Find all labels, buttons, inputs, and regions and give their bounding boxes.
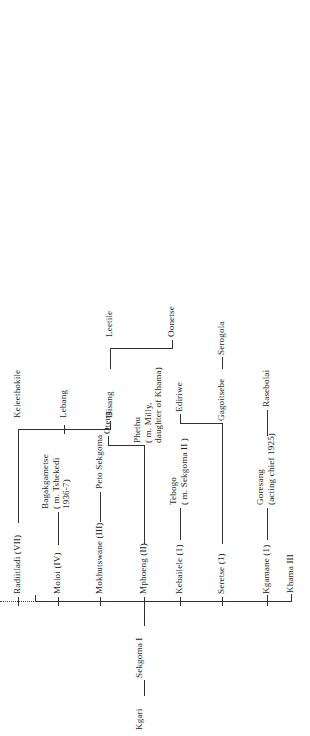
tick-radiitladi [18,597,19,606]
node-tebogo: Tebogo ( m. Sekgoma II ) [168,438,189,505]
connector-kgamane-goresang [267,508,268,540]
node-disang: Disang [104,391,115,418]
node-oonetse: Oonetse [166,306,177,337]
genealogy-canvas: Kgari Sekgoma I Kgamane (1) Seretse (1) … [0,0,310,736]
node-goresang: Goresang (acting chief 1925) [255,433,276,505]
node-sekgoma-i: Sekgoma I [134,638,145,679]
tick-moloi [58,597,59,606]
node-kgamane: Kgamane (1) [261,545,272,594]
node-moloi: Moloi (IV) [52,552,63,594]
connector-seretse-gagoitsebe [222,424,223,544]
connector-moloi-bagakgametse [58,512,59,545]
bracket-seretse-kebailele [180,423,223,424]
connector-radiitladi-children [18,430,19,523]
connector-gagoitsebe-serogola [222,357,223,369]
connector-oteng-stub [108,436,109,446]
spine-children-of-sekgoma [35,601,267,602]
node-bagakgametse: Bagakgametse ( m. Tshekedi 1936-7) [40,454,72,509]
node-ediriwe: Ediriwe [174,382,185,412]
bracket-disang-children [110,348,172,349]
connector-mokhutswane-peto [100,492,101,522]
node-phethu: Phethu ( m. Milly, daughter of Khama) [132,367,164,443]
node-peto-sekgoma: Peto Sekgoma [94,435,105,489]
node-gagoitsebe: Gagoitsebe [216,379,227,421]
tick-lebang [64,425,65,434]
connector-mphoeng-phethu [144,446,145,544]
node-khama-iii: Khama III [285,554,296,593]
node-kgari: Kgari [134,709,145,730]
tick-mphoeng [144,597,145,606]
node-mphoeng: Mphoeng (II) [138,543,149,594]
connector-goresang-rasebolai [267,410,268,436]
node-kebailele: Kebailele (1) [174,544,185,594]
node-leetile: Leetile [104,311,115,337]
tick-kebailele [180,597,181,606]
tick-oonetse [172,340,173,349]
genealogy-chart-page: Kgari Sekgoma I Kgamane (1) Seretse (1) … [0,0,310,736]
node-serogola: Serogola [216,321,227,355]
tick-disang [110,421,111,430]
node-keleethokile: Keleethokile [12,370,23,418]
tick-mokhutswane [100,597,101,606]
connector-disang-children [110,349,111,369]
connector-spine-khama [267,601,291,602]
node-rasebolai: Rasebolai [261,370,272,407]
connector-kebailele-tebogo [180,508,181,540]
node-lebang: Lebang [58,390,69,418]
node-radiitladi: Radiitladi (VII) [12,535,23,594]
node-mokhutswane: Mokhutswane (III) [94,523,105,595]
node-seretse: Seretse (1) [216,553,227,594]
connector-khama-stub [291,594,292,602]
bracket-phethu-oteng [108,445,145,446]
connector-tebogo-ediriwe [180,414,181,424]
connector-kgari-sekgoma [144,680,145,696]
tick-seretse [222,597,223,606]
